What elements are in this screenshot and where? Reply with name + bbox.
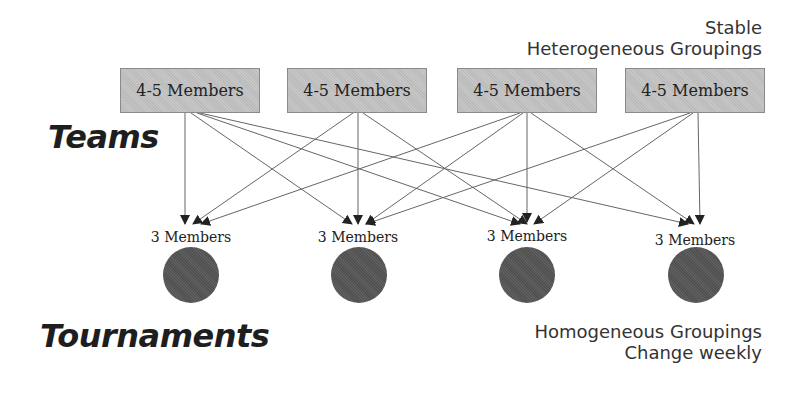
homogeneous-note: Homogeneous Groupings Change weekly bbox=[534, 321, 762, 363]
diagram-canvas: Stable Heterogeneous Groupings 4-5 Membe… bbox=[0, 0, 806, 393]
teams-label: Teams bbox=[48, 118, 159, 156]
team-box-2: 4-5 Members bbox=[287, 68, 427, 113]
team-box-3: 4-5 Members bbox=[457, 68, 597, 113]
tournament-table-2 bbox=[331, 247, 387, 303]
note-line: Homogeneous Groupings bbox=[534, 321, 762, 342]
stable-heterogeneous-note: Stable Heterogeneous Groupings bbox=[527, 17, 762, 59]
tournament-table-1 bbox=[163, 247, 219, 303]
note-line: Stable bbox=[527, 17, 762, 38]
note-line: Heterogeneous Groupings bbox=[527, 38, 762, 59]
tournament-label-1: 3 Members bbox=[136, 229, 246, 245]
tournaments-label: Tournaments bbox=[40, 317, 269, 355]
tournament-label-4: 3 Members bbox=[640, 232, 750, 248]
tournament-table-3 bbox=[499, 247, 555, 303]
team-box-1: 4-5 Members bbox=[120, 68, 260, 113]
tournament-table-4 bbox=[668, 247, 724, 303]
note-line: Change weekly bbox=[534, 342, 762, 363]
tournament-label-3: 3 Members bbox=[472, 228, 582, 244]
team-box-4: 4-5 Members bbox=[625, 68, 765, 113]
tournament-label-2: 3 Members bbox=[303, 229, 413, 245]
